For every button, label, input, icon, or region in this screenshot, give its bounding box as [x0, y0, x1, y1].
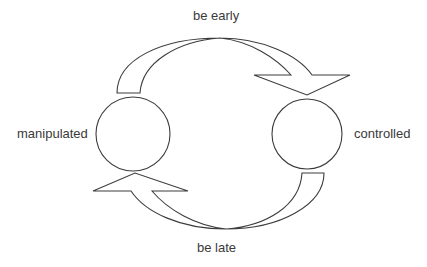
node-manipulated: [96, 97, 170, 171]
node-label-controlled: controlled: [354, 126, 410, 141]
arrow-be-late: [93, 173, 324, 229]
node-controlled: [272, 99, 342, 169]
edge-label-be-early: be early: [193, 8, 239, 23]
edge-label-be-late: be late: [197, 240, 236, 255]
node-label-manipulated: manipulated: [17, 126, 88, 141]
arrow-be-early: [117, 38, 350, 95]
